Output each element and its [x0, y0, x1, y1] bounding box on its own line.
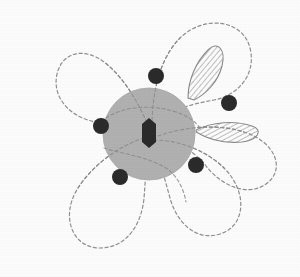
orbital-diagram-canvas [0, 0, 300, 277]
figure-root [0, 0, 300, 277]
atom-dot-left [93, 118, 109, 134]
atom-dot-bottom-left [112, 169, 128, 185]
atom-dot-right [221, 95, 237, 111]
core-hexagon [142, 118, 156, 148]
atom-dot-bottom-right [188, 157, 204, 173]
atom-dot-top [148, 68, 164, 84]
